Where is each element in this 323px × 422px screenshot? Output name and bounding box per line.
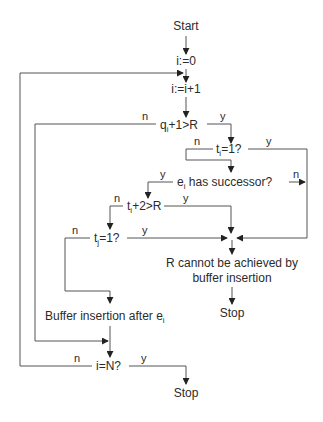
successor-node: ei has successor?: [177, 175, 273, 191]
edge-ti2-yes: [164, 206, 231, 233]
flowchart: Start i:=0 i:=i+1 qi+1>R ti=1? ei has su…: [0, 0, 323, 422]
label-successor-yes: y: [160, 168, 166, 180]
label-ncheck-yes: y: [141, 352, 147, 364]
label-ti2-no: n: [114, 192, 120, 204]
ti-check-node: ti=1?: [216, 142, 242, 158]
start-node: Start: [173, 19, 199, 33]
edge-successor-yes: [148, 182, 173, 198]
stop-node-end: Stop: [174, 386, 199, 400]
label-successor-no: n: [293, 168, 299, 180]
n-check-node: i=N?: [96, 359, 121, 373]
label-tj-yes: y: [142, 224, 148, 236]
label-ncheck-no: n: [74, 352, 80, 364]
edge-tj-no: [65, 238, 110, 303]
ti2-check-node: ti+2>R: [127, 199, 162, 215]
fail-node-line2: buffer insertion: [192, 271, 271, 285]
stop-node-fail: Stop: [220, 306, 245, 320]
edge-ti2-no: [110, 206, 123, 229]
label-ti2-yes: y: [183, 192, 189, 204]
edge-q-yes: [207, 124, 231, 143]
edge-ti-yes: [237, 149, 307, 238]
label-q-no: n: [142, 110, 148, 122]
increment-node: i:=i+1: [171, 82, 201, 96]
label-q-yes: y: [220, 110, 226, 122]
edge-ncheck-yes: [129, 366, 186, 384]
init-node: i:=0: [176, 54, 196, 68]
q-check-node: qi+1>R: [160, 118, 198, 134]
label-tj-no: n: [72, 224, 78, 236]
buffer-insertion-node: Buffer insertion after ei: [45, 309, 165, 325]
label-ti-no: n: [194, 135, 200, 147]
tj-check-node: tj=1?: [94, 231, 120, 247]
fail-node-line1: R cannot be achieved by: [166, 256, 298, 270]
label-ti-yes: y: [266, 135, 272, 147]
